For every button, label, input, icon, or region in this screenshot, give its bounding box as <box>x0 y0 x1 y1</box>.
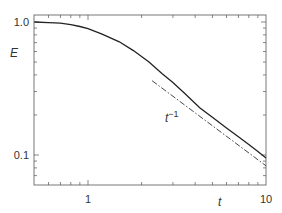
energy-curve <box>34 22 266 158</box>
y-tick-label-0-1: 0.1 <box>14 149 29 161</box>
chart-canvas: E t 1 10 1.0 0.1 t−1 <box>0 0 282 213</box>
y-tick-label-1: 1.0 <box>14 16 29 28</box>
y-axis-label: E <box>10 46 19 60</box>
annotation-exponent: −1 <box>168 109 178 119</box>
x-tick-label-1: 1 <box>85 193 91 205</box>
plot-frame <box>34 15 266 185</box>
x-axis-label: t <box>218 195 222 209</box>
x-tick-label-10: 10 <box>260 193 272 205</box>
axis-ticks <box>34 15 266 185</box>
power-law-asymptote-line <box>152 81 266 166</box>
power-law-annotation: t−1 <box>165 109 179 125</box>
